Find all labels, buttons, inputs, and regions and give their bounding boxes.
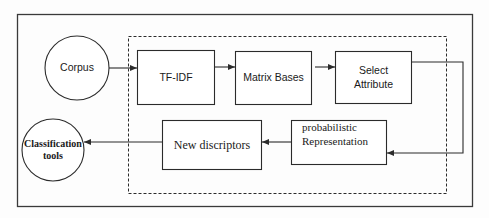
corpus-node-label: Corpus bbox=[45, 36, 109, 100]
matrix-bases-text: Matrix Bases bbox=[243, 71, 304, 84]
classification-text-line2: tools bbox=[43, 150, 63, 163]
classification-node-label: Classification tools bbox=[22, 119, 84, 181]
probabilistic-node-label: probabilistic Representation bbox=[292, 121, 386, 164]
classification-text-line1: Classification bbox=[24, 138, 82, 151]
diagram-canvas: Corpus TF-IDF Matrix Bases Select Attrib… bbox=[0, 0, 489, 218]
probabilistic-text-line2: Representation bbox=[302, 135, 368, 149]
select-attribute-node-label: Select Attribute bbox=[336, 52, 411, 103]
probabilistic-text-line1: probabilistic bbox=[302, 121, 357, 135]
tfidf-node-label: TF-IDF bbox=[138, 51, 214, 104]
diagram-shapes bbox=[0, 0, 489, 218]
tfidf-text: TF-IDF bbox=[159, 71, 192, 84]
select-attribute-text-line2: Attribute bbox=[354, 78, 393, 91]
new-discriptors-text: New discriptors bbox=[174, 138, 250, 153]
matrix-bases-node-label: Matrix Bases bbox=[236, 52, 311, 104]
new-discriptors-node-label: New discriptors bbox=[163, 121, 261, 169]
corpus-text: Corpus bbox=[60, 61, 94, 74]
select-attribute-text-line1: Select bbox=[359, 64, 388, 77]
